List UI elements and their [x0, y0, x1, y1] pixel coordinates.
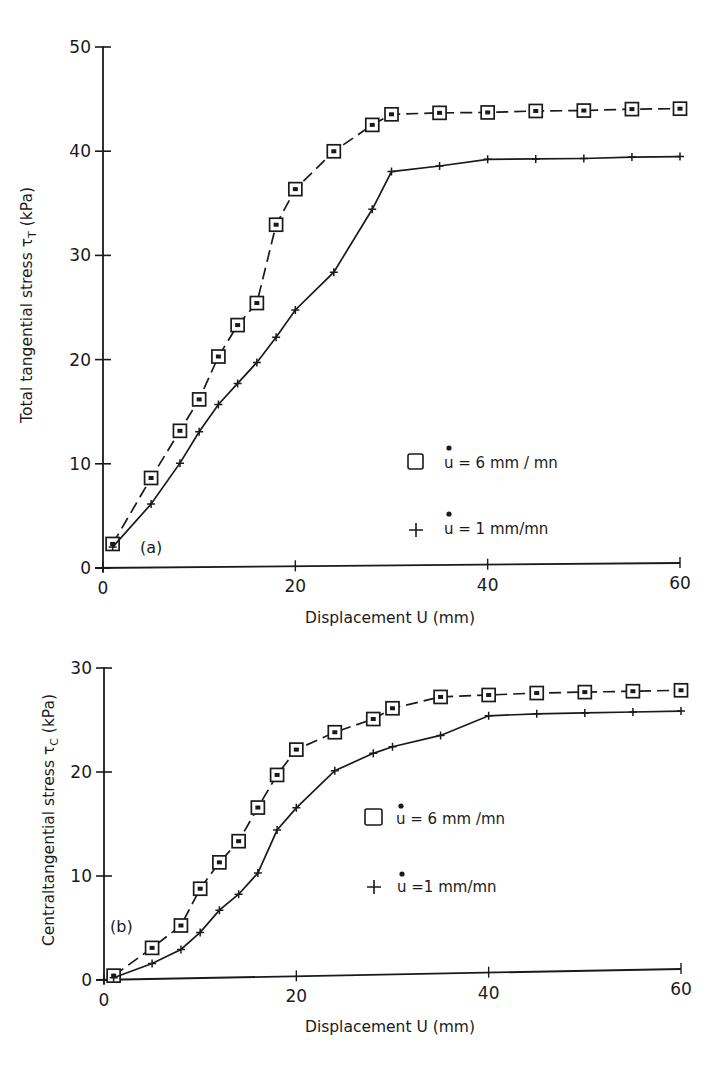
plus-marker-icon — [369, 749, 377, 757]
x-tick-label: 0 — [98, 578, 109, 598]
chart-panel-b: 01020300204060 (b) Displacement U (mm) C… — [40, 658, 692, 1036]
square-marker-fill — [236, 839, 241, 843]
legend-item-6mm: u = 6 mm /mn — [365, 803, 505, 828]
square-marker-fill — [235, 323, 240, 327]
plus-marker-icon — [677, 707, 685, 715]
plus-marker-icon — [388, 168, 396, 176]
square-marker-fill — [582, 690, 587, 694]
x-tick-label: 20 — [285, 576, 307, 596]
x-tick-label: 20 — [286, 986, 308, 1006]
square-marker-fill — [371, 717, 376, 721]
x-axis-title-a: Displacement U (mm) — [305, 609, 475, 627]
y-tick-label: 30 — [69, 245, 91, 265]
square-marker-fill — [255, 806, 260, 810]
square-marker-fill — [486, 693, 491, 697]
y-tick-label: 0 — [80, 558, 91, 578]
plus-marker-icon — [628, 153, 636, 161]
square-marker-fill — [197, 397, 202, 401]
y-axis-title-b-main: Centraltangential stress τ — [40, 746, 58, 946]
square-marker-fill — [294, 748, 299, 752]
square-marker-fill — [485, 110, 490, 114]
legend-b: u = 6 mm /mn u =1 mm/mn — [365, 803, 505, 896]
square-marker-fill — [332, 730, 337, 734]
square-marker-fill — [629, 107, 634, 111]
square-marker-fill — [178, 923, 183, 927]
plus-marker-icon — [629, 708, 637, 716]
x-tick-label: 60 — [670, 979, 692, 999]
series-line-1mm — [114, 711, 681, 978]
legend-label-1mm: u =1 mm/mn — [397, 878, 497, 896]
y-tick-label: 20 — [69, 350, 91, 370]
series-line-1mm — [113, 157, 680, 547]
x-tick-label: 40 — [478, 983, 500, 1003]
square-marker-fill — [177, 429, 182, 433]
legend-item-6mm: u = 6 mm / mn — [408, 445, 558, 472]
square-marker-fill — [437, 111, 442, 115]
panel-label-b: (b) — [110, 917, 133, 936]
series-b — [107, 684, 687, 982]
square-marker-fill — [678, 107, 683, 111]
series-a — [106, 102, 686, 551]
square-marker-fill — [679, 688, 684, 692]
plus-marker-icon — [389, 743, 397, 751]
y-axis-title-b: Centraltangential stress τC (kPa) — [40, 694, 61, 946]
y-tick-label: 10 — [69, 454, 91, 474]
square-marker-fill — [293, 187, 298, 191]
x-axis-line — [95, 563, 680, 568]
square-marker-fill — [331, 149, 336, 153]
legend-label-6mm: u = 6 mm /mn — [396, 810, 505, 828]
plus-marker-icon — [367, 880, 381, 894]
plus-marker-icon — [484, 155, 492, 163]
x-axis-title-b: Displacement U (mm) — [305, 1018, 475, 1036]
square-marker-fill — [389, 112, 394, 116]
figure: 010203040500204060 (a) Displacement U (m… — [0, 0, 726, 1083]
square-marker-icon — [365, 809, 382, 825]
square-marker-fill — [370, 123, 375, 127]
plus-marker-icon — [368, 205, 376, 213]
y-tick-label: 50 — [69, 37, 91, 57]
plus-marker-icon — [581, 709, 589, 717]
square-marker-fill — [630, 689, 635, 693]
plus-marker-icon — [533, 710, 541, 718]
y-tick-label: 40 — [69, 141, 91, 161]
legend-label-6mm: u = 6 mm / mn — [444, 454, 558, 472]
square-marker-fill — [150, 946, 155, 950]
dot-accent-icon — [398, 803, 403, 808]
y-tick-label: 10 — [70, 866, 92, 886]
y-axis-title-a-main: Total tangential stress τ — [18, 238, 36, 424]
square-marker-fill — [254, 301, 259, 305]
square-marker-fill — [216, 355, 221, 359]
y-axis-title-b-unit: (kPa) — [40, 694, 58, 738]
plus-marker-icon — [148, 959, 156, 967]
square-marker-fill — [149, 476, 154, 480]
square-marker-fill — [534, 691, 539, 695]
square-marker-fill — [275, 773, 280, 777]
series-line-6mm — [113, 109, 680, 544]
y-axis-title-a: Total tangential stress τT (kPa) — [18, 187, 39, 424]
panel-label-a: (a) — [140, 538, 162, 557]
legend-a: u = 6 mm / mn u = 1 mm/mn — [408, 445, 558, 538]
plus-marker-icon — [485, 712, 493, 720]
y-tick-label: 30 — [70, 658, 92, 678]
plus-marker-icon — [532, 155, 540, 163]
square-marker-fill — [581, 109, 586, 113]
plus-marker-icon — [437, 731, 445, 739]
square-marker-icon — [408, 454, 423, 469]
square-marker-fill — [533, 109, 538, 113]
square-marker-fill — [217, 860, 222, 864]
plus-marker-icon — [409, 523, 423, 537]
legend-item-1mm: u = 1 mm/mn — [409, 511, 548, 538]
legend-label-1mm: u = 1 mm/mn — [444, 520, 548, 538]
square-marker-fill — [438, 695, 443, 699]
dot-accent-icon — [446, 445, 451, 450]
square-marker-fill — [274, 223, 279, 227]
chart-panel-a: 010203040500204060 (a) Displacement U (m… — [18, 37, 691, 627]
y-tick-label: 20 — [70, 762, 92, 782]
dot-accent-icon — [399, 871, 404, 876]
x-tick-label: 0 — [99, 990, 110, 1010]
dot-accent-icon — [446, 511, 451, 516]
x-axis-line — [96, 969, 681, 980]
square-marker-fill — [390, 706, 395, 710]
plus-marker-icon — [676, 153, 684, 161]
plus-marker-icon — [436, 162, 444, 170]
